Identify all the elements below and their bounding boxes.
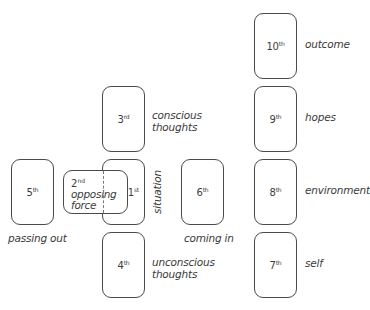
- card-2-opposing-force: 2nd opposing force: [63, 170, 128, 214]
- card-number: 10th: [266, 40, 284, 52]
- card-number: 1st: [128, 186, 139, 198]
- label-line: thoughts: [152, 121, 202, 133]
- label-line: thoughts: [152, 268, 215, 280]
- card-6-coming-in: 6th: [181, 159, 224, 225]
- card-8-environment: 8th: [254, 159, 297, 225]
- card-number: 9th: [270, 113, 282, 125]
- card-10-outcome: 10th: [254, 13, 297, 79]
- card-4-unconscious-thoughts: 4th: [102, 232, 145, 298]
- label-line: unconscious: [152, 256, 215, 268]
- card-7-self: 7th: [254, 232, 297, 298]
- card-2-label-line2: force: [71, 200, 117, 211]
- label-passing-out: passing out: [8, 232, 67, 244]
- label-conscious-thoughts: conscious thoughts: [152, 109, 202, 133]
- label-line: conscious: [152, 109, 202, 121]
- label-self: self: [305, 257, 323, 269]
- label-situation: situation: [151, 170, 163, 214]
- card-number: 8th: [270, 186, 282, 198]
- label-coming-in: coming in: [184, 232, 234, 244]
- card-3-conscious-thoughts: 3rd: [102, 86, 145, 152]
- label-unconscious-thoughts: unconscious thoughts: [152, 256, 215, 280]
- label-hopes: hopes: [305, 111, 336, 123]
- card-number: 5th: [27, 186, 39, 198]
- card-number: 3rd: [118, 113, 130, 125]
- card-number: 6th: [197, 186, 209, 198]
- label-environment: environment: [305, 184, 370, 196]
- card-5-passing-out: 5th: [11, 159, 54, 225]
- card-number: 2nd: [71, 175, 117, 189]
- card-number: 7th: [270, 259, 282, 271]
- card-number: 4th: [118, 259, 130, 271]
- card-1-hidden-edge: [103, 171, 104, 213]
- card-9-hopes: 9th: [254, 86, 297, 152]
- label-outcome: outcome: [305, 38, 350, 50]
